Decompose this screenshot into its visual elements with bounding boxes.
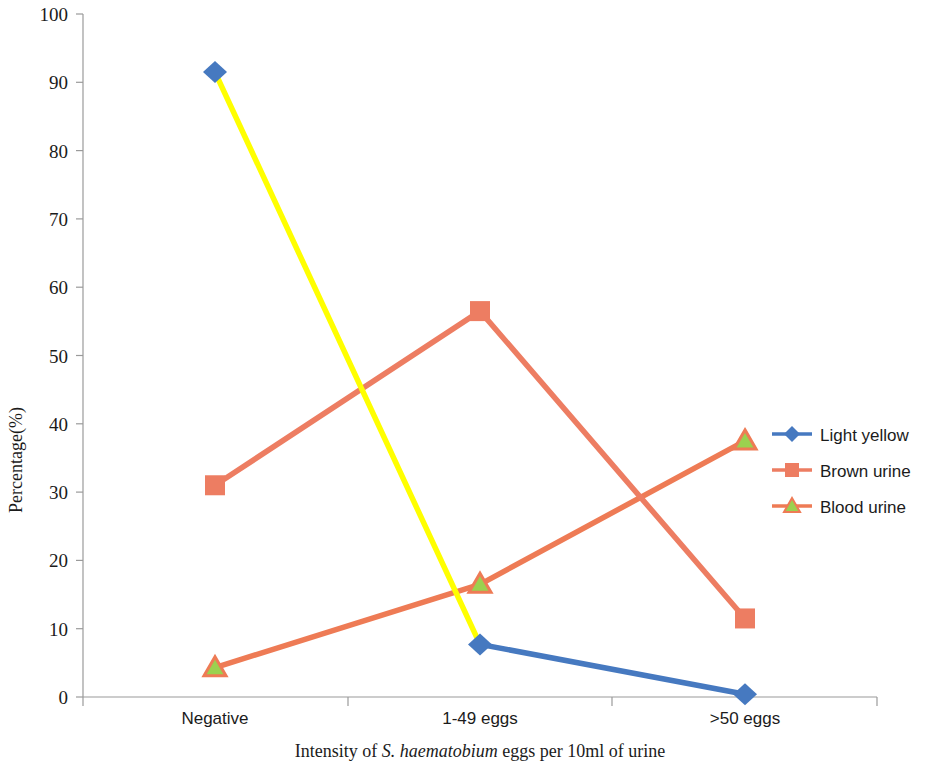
- markers-light-yellow: [203, 61, 757, 705]
- x-axis-title: Intensity of S. haematobium eggs per 10m…: [295, 741, 665, 761]
- x-axis-title-before: Intensity of: [295, 741, 382, 761]
- legend-marker-square-icon: [785, 463, 799, 477]
- legend-item-light-yellow[interactable]: Light yellow: [772, 426, 910, 445]
- data-point-brown-urine-negative: [205, 475, 225, 495]
- y-tick-labels: 100 90 80 70 60 50 40 30 20 10 0: [40, 4, 69, 708]
- y-tick-label: 0: [59, 687, 69, 708]
- y-tick-label: 30: [49, 482, 68, 503]
- y-axis-title: Percentage(%): [6, 407, 27, 513]
- y-tick-label: 80: [49, 141, 68, 162]
- y-tick-label: 90: [49, 72, 68, 93]
- series-line-light-yellow: [215, 72, 745, 694]
- x-tick-label-negative: Negative: [181, 709, 248, 728]
- y-tick-label: 50: [49, 346, 68, 367]
- legend-label-brown-urine: Brown urine: [820, 462, 911, 481]
- x-axis-title-species: S. haematobium: [382, 741, 498, 761]
- data-point-brown-urine-over-50: [735, 608, 755, 628]
- legend-label-blood-urine: Blood urine: [820, 498, 906, 517]
- y-tick-marks: [76, 14, 83, 697]
- y-tick-label: 20: [49, 550, 68, 571]
- line-chart: 100 90 80 70 60 50 40 30 20 10 0 Percent…: [0, 0, 937, 776]
- data-point-light-yellow-negative: [203, 61, 227, 83]
- y-tick-label: 60: [49, 277, 68, 298]
- light-yellow-segment-2: [480, 644, 745, 694]
- x-tick-marks: [83, 697, 877, 706]
- legend-label-light-yellow: Light yellow: [820, 426, 910, 445]
- x-tick-label-1-49-eggs: 1-49 eggs: [442, 709, 518, 728]
- legend-item-blood-urine[interactable]: Blood urine: [772, 498, 906, 517]
- y-tick-label: 10: [49, 619, 68, 640]
- data-point-blood-urine-over-50: [734, 430, 756, 449]
- light-yellow-segment-1: [215, 72, 480, 644]
- y-tick-label: 40: [49, 414, 68, 435]
- legend-item-brown-urine[interactable]: Brown urine: [772, 462, 911, 481]
- y-tick-label: 70: [49, 209, 68, 230]
- y-tick-label: 100: [40, 4, 69, 25]
- x-category-labels: Negative 1-49 eggs >50 eggs: [181, 709, 780, 728]
- data-point-light-yellow-over-50: [733, 683, 757, 705]
- data-point-light-yellow-1-49: [468, 633, 492, 655]
- chart-container: 100 90 80 70 60 50 40 30 20 10 0 Percent…: [0, 0, 937, 776]
- data-point-brown-urine-1-49: [470, 301, 490, 321]
- legend-marker-diamond-icon: [784, 426, 800, 442]
- x-tick-label-over-50-eggs: >50 eggs: [710, 709, 780, 728]
- x-axis-title-after: eggs per 10ml of urine: [498, 741, 665, 761]
- legend: Light yellow Brown urine Blood urine: [772, 426, 911, 517]
